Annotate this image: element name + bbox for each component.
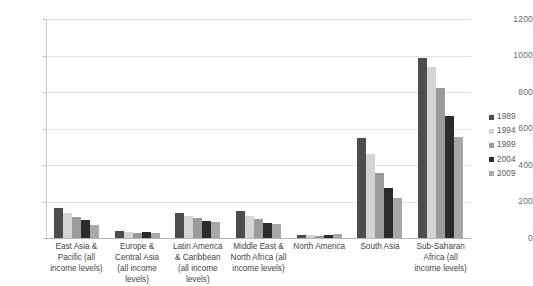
bar[interactable]	[445, 116, 454, 238]
bar[interactable]	[357, 138, 366, 238]
x-axis-label: Middle East & North Africa (all income l…	[228, 241, 289, 285]
legend-swatch-icon	[489, 157, 494, 162]
bar-group-bars	[350, 19, 411, 238]
legend-label: 1999	[497, 141, 516, 149]
bar[interactable]	[306, 235, 315, 238]
y-tick-label: 1200	[493, 15, 533, 24]
y-tick-label: 1000	[493, 51, 533, 60]
bar[interactable]	[454, 137, 463, 238]
bar[interactable]	[366, 154, 375, 238]
bar[interactable]	[333, 234, 342, 238]
bar[interactable]	[81, 220, 90, 238]
legend-item[interactable]: 2004	[489, 153, 533, 167]
legend-label: 2009	[497, 170, 516, 178]
bar-chart: 020040060080010001200 East Asia & Pacifi…	[0, 0, 533, 286]
bar-group	[289, 19, 350, 238]
bar[interactable]	[211, 222, 220, 238]
bar[interactable]	[436, 88, 445, 238]
bar[interactable]	[315, 236, 324, 238]
plot-area	[46, 19, 471, 238]
y-tick-label: 800	[493, 88, 533, 97]
bar-group	[228, 19, 289, 238]
x-axis-label: North America	[289, 241, 350, 285]
bar[interactable]	[175, 213, 184, 238]
bar[interactable]	[427, 67, 436, 238]
bar-group	[167, 19, 228, 238]
bar[interactable]	[184, 216, 193, 238]
x-axis-line	[46, 238, 471, 239]
bar[interactable]	[375, 173, 384, 238]
bar-group-bars	[46, 19, 107, 238]
bar[interactable]	[393, 198, 402, 238]
bar-group-bars	[107, 19, 168, 238]
bar[interactable]	[63, 213, 72, 238]
y-tick-label: 200	[493, 197, 533, 206]
x-axis-labels: East Asia & Pacific (all income levels)E…	[46, 241, 471, 285]
bar-group	[410, 19, 471, 238]
legend-swatch-icon	[489, 171, 494, 176]
bar-group	[350, 19, 411, 238]
bar-group-bars	[410, 19, 471, 238]
bar[interactable]	[54, 208, 63, 238]
legend-item[interactable]: 2009	[489, 167, 533, 181]
chart-legend: 19891994199920042009	[489, 110, 533, 181]
bar[interactable]	[133, 233, 142, 238]
legend-label: 1989	[497, 113, 516, 121]
x-axis-label: East Asia & Pacific (all income levels)	[46, 241, 107, 285]
bar-group	[107, 19, 168, 238]
legend-label: 2004	[497, 156, 516, 164]
legend-label: 1994	[497, 127, 516, 135]
x-axis-label: South Asia	[350, 241, 411, 285]
bar[interactable]	[151, 233, 160, 238]
bar-group	[46, 19, 107, 238]
bar[interactable]	[245, 216, 254, 238]
x-axis-label: Sub-Saharan Africa (all income levels)	[410, 241, 471, 285]
bar-group-bars	[228, 19, 289, 238]
bar[interactable]	[236, 211, 245, 238]
legend-swatch-icon	[489, 129, 494, 134]
bar-group-bars	[289, 19, 350, 238]
legend-item[interactable]: 1999	[489, 138, 533, 152]
x-axis-label: Latin America & Caribbean (all income le…	[167, 241, 228, 285]
bar[interactable]	[263, 223, 272, 238]
bar[interactable]	[142, 232, 151, 238]
legend-swatch-icon	[489, 143, 494, 148]
bar-group-bars	[167, 19, 228, 238]
y-tick-label: 0	[493, 234, 533, 243]
bar[interactable]	[418, 58, 427, 238]
legend-swatch-icon	[489, 115, 494, 120]
bar[interactable]	[124, 232, 133, 238]
bar[interactable]	[90, 225, 99, 239]
bar[interactable]	[72, 217, 81, 238]
bar[interactable]	[324, 235, 333, 238]
bar[interactable]	[193, 218, 202, 238]
legend-item[interactable]: 1994	[489, 124, 533, 138]
bar[interactable]	[384, 188, 393, 238]
bar[interactable]	[254, 219, 263, 238]
bar[interactable]	[115, 231, 124, 238]
bar[interactable]	[297, 235, 306, 238]
x-axis-label: Europe & Central Asia (all income levels…	[107, 241, 168, 285]
legend-item[interactable]: 1989	[489, 110, 533, 124]
bar[interactable]	[202, 221, 211, 238]
bar[interactable]	[272, 224, 281, 238]
